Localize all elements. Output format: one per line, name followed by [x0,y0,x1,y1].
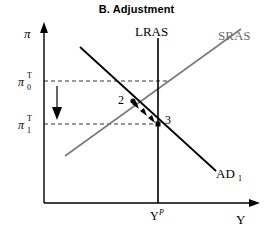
lras-label: LRAS [135,24,168,39]
output-axis-arrowhead [249,199,260,207]
pi1-tick-label-group: π 1 T [18,114,32,135]
pi1-tick-base: π [18,118,25,132]
pi0-tick-base: π [18,75,25,89]
ad1-label-group: AD 1 [216,166,242,183]
point-3-label: 3 [165,113,171,127]
pi1-tick-sub: 1 [27,126,31,135]
sras-label: SRAS [218,28,251,43]
inflation-axis-arrowhead [40,22,48,33]
pi1-tick-sup: T [27,114,32,123]
downward-shift-arrow [52,86,62,120]
ad1-label-sub: 1 [238,174,242,183]
point-2-marker [130,98,135,103]
shift-arrow-head [52,107,62,120]
pi0-tick-sub: 0 [27,83,31,92]
sras-curve [65,29,241,156]
yp-tick-sup: P [158,208,164,217]
economics-plot: π Y π 0 T π 1 T Y P LRAS SRAS AD 1 2 3 [0,0,273,231]
ad1-curve [80,47,216,171]
inflation-axis-label: π [24,26,31,41]
potential-output-tick-group: Y P [150,208,164,223]
pi0-tick-label-group: π 0 T [18,71,32,92]
output-axis-label: Y [236,212,246,227]
yp-tick-base: Y [150,209,159,223]
point-2-label: 2 [118,93,124,107]
point-3-marker [156,122,161,127]
figure-container: B. Adjustment π [0,0,273,231]
path-arrow-3 [148,115,155,123]
ad1-label: AD [216,166,235,181]
pi0-tick-sup: T [27,71,32,80]
path-arrow-2 [140,108,147,116]
